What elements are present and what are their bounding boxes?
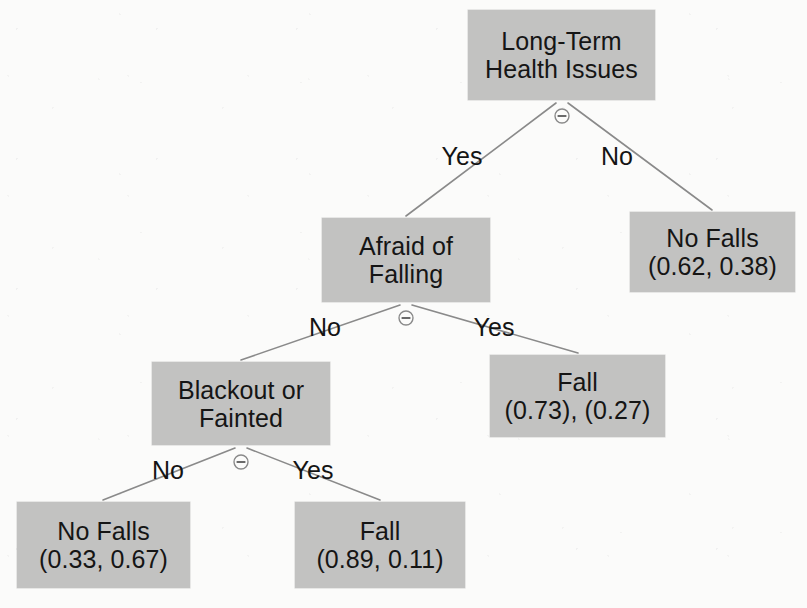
edge-label-root-no: No (601, 144, 633, 169)
node-label-line1: Afraid of (359, 232, 453, 260)
node-label-line1: Fall (557, 368, 598, 396)
edge-label-blackout-no: No (152, 458, 184, 483)
node-label-line2: Health Issues (485, 55, 638, 83)
node-label-line1: Fall (360, 517, 401, 545)
tree-node-afraid-of-falling[interactable]: Afraid ofFalling (322, 218, 490, 302)
tree-node-no-falls-bottom[interactable]: No Falls(0.33, 0.67) (17, 502, 190, 588)
node-label-line2: (0.89, 0.11) (316, 545, 443, 573)
tree-node-root[interactable]: Long-TermHealth Issues (468, 10, 655, 100)
node-label-line2: Fainted (199, 404, 283, 432)
node-label-line2: (0.62, 0.38) (648, 252, 777, 280)
circled-minus-icon[interactable] (398, 310, 415, 327)
node-label-line1: Blackout or (178, 376, 304, 404)
decision-tree-diagram: Long-TermHealth IssuesAfraid ofFallingNo… (0, 0, 807, 608)
tree-node-blackout-or-fainted[interactable]: Blackout orFainted (152, 362, 330, 445)
node-label-line1: No Falls (666, 224, 759, 252)
node-label-line2: Falling (369, 260, 443, 288)
node-label-line1: No Falls (57, 517, 150, 545)
node-label-line1: Long-Term (501, 27, 621, 55)
edge-label-afraid-yes: Yes (474, 315, 515, 340)
circled-minus-icon[interactable] (233, 454, 250, 471)
node-label-line2: (0.73), (0.27) (505, 396, 651, 424)
tree-node-fall-073[interactable]: Fall(0.73), (0.27) (490, 355, 665, 437)
node-label-line2: (0.33, 0.67) (39, 545, 168, 573)
tree-edge (568, 103, 712, 210)
circled-minus-icon[interactable] (554, 108, 571, 125)
edge-label-afraid-no: No (309, 315, 341, 340)
edge-label-blackout-yes: Yes (293, 458, 334, 483)
tree-node-no-falls-right[interactable]: No Falls(0.62, 0.38) (630, 212, 795, 292)
tree-node-fall-089[interactable]: Fall(0.89, 0.11) (295, 502, 465, 588)
edge-label-root-yes: Yes (442, 144, 483, 169)
